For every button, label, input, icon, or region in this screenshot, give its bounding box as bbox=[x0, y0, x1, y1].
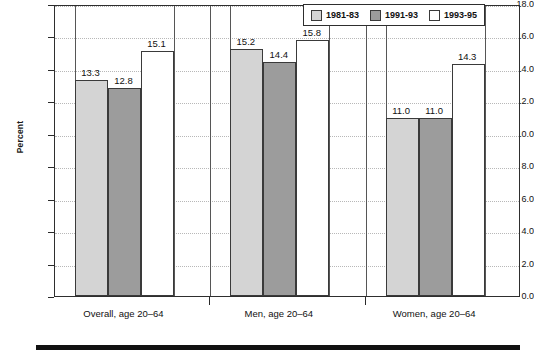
bar-chart-figure: Percent 0.02.04.06.08.010.012.014.016.01… bbox=[0, 0, 534, 360]
bar bbox=[419, 118, 452, 296]
legend-entry-1: 1991-93 bbox=[370, 10, 418, 21]
bar bbox=[141, 51, 174, 296]
bar-value-label: 15.1 bbox=[134, 39, 179, 49]
bar bbox=[452, 64, 485, 296]
legend-swatch-icon-1993-95 bbox=[429, 10, 440, 21]
bar-value-label: 15.2 bbox=[223, 37, 268, 47]
x-tick-mark bbox=[365, 297, 366, 305]
legend-label-1: 1991-93 bbox=[385, 10, 418, 20]
bar-value-label: 14.3 bbox=[445, 52, 490, 62]
y-axis-title: Percent bbox=[15, 97, 25, 177]
group-divider bbox=[210, 6, 211, 296]
gridline bbox=[55, 38, 519, 39]
y-tick-mark bbox=[48, 297, 54, 298]
bar-value-label: 11.0 bbox=[412, 106, 457, 116]
legend-label-0: 1981-83 bbox=[326, 10, 359, 20]
bar bbox=[230, 49, 263, 296]
bar-value-label: 12.8 bbox=[101, 76, 146, 86]
bar bbox=[296, 40, 329, 296]
legend-swatch-icon-1981-83 bbox=[311, 10, 322, 21]
bar-value-label: 15.8 bbox=[289, 28, 334, 38]
slot-divider bbox=[174, 6, 175, 296]
legend-label-2: 1993-95 bbox=[444, 10, 477, 20]
x-category-label: Men, age 20–64 bbox=[199, 308, 359, 319]
legend-entry-0: 1981-83 bbox=[311, 10, 359, 21]
bar bbox=[108, 88, 141, 296]
bar-value-label: 14.4 bbox=[256, 50, 301, 60]
legend-swatch-icon-1991-93 bbox=[370, 10, 381, 21]
legend-entry-2: 1993-95 bbox=[429, 10, 477, 21]
slot-divider bbox=[485, 6, 486, 296]
bar bbox=[75, 80, 108, 296]
slot-divider bbox=[329, 6, 330, 296]
x-tick-mark bbox=[209, 297, 210, 305]
bar bbox=[386, 118, 419, 296]
x-category-label: Overall, age 20–64 bbox=[44, 308, 204, 319]
legend: 1981-83 1991-93 1993-95 bbox=[303, 4, 485, 26]
bar bbox=[263, 62, 296, 296]
x-category-label: Women, age 20–64 bbox=[354, 308, 514, 319]
group-divider bbox=[366, 6, 367, 296]
bottom-rule bbox=[36, 345, 520, 350]
